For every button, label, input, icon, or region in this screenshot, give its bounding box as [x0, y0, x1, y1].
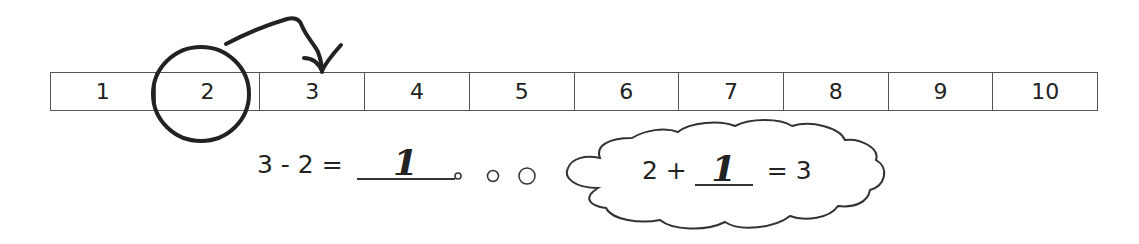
thought-dot-large-icon — [519, 168, 535, 184]
circle-mark-icon — [153, 47, 249, 141]
subtraction-answer-blank: 1 — [357, 146, 455, 180]
minuend: 3 — [257, 150, 273, 179]
minus-sign: - — [281, 150, 290, 179]
addend: 2 — [642, 156, 658, 185]
subtraction-equation: 3 - 2 = 1 — [257, 146, 455, 180]
thought-dot-medium-icon — [488, 171, 499, 182]
plus-sign: + — [666, 156, 687, 185]
equals-sign: = — [322, 150, 343, 179]
addition-equation: 2 + 1 = 3 — [642, 152, 812, 186]
addition-answer-blank: 1 — [695, 152, 753, 186]
sum: 3 — [796, 156, 812, 185]
annotations-layer — [0, 0, 1139, 244]
thought-dot-small-icon — [455, 173, 461, 179]
arrow-head-icon — [304, 45, 341, 71]
subtrahend: 2 — [298, 150, 314, 179]
equals-sign-2: = — [767, 156, 788, 185]
